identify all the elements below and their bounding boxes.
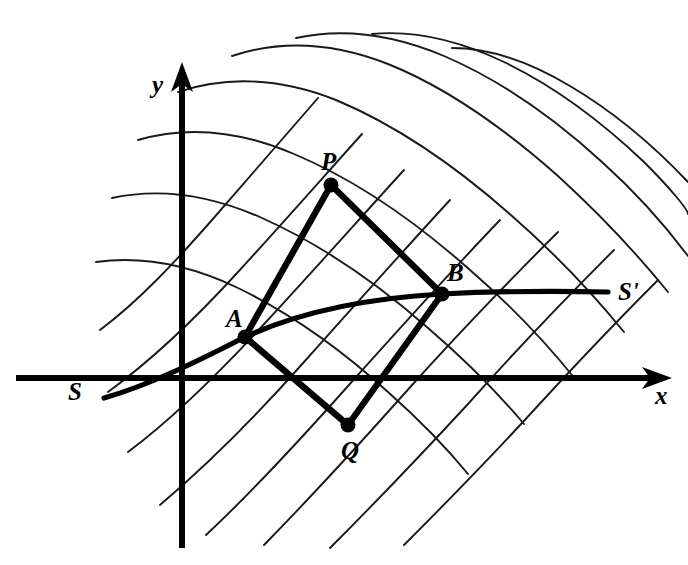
vertex-dot-B [435,287,450,302]
coordinate-grid-diagram: x y S S' APBQ [0,0,688,565]
figure-background [0,0,688,565]
x-axis-label: x [654,382,668,409]
vertex-label-Q: Q [341,437,359,464]
figure-root: x y S S' APBQ [0,0,688,565]
y-axis-label: y [149,71,164,98]
vertex-label-B: B [446,259,464,286]
vertex-label-P: P [320,148,337,175]
vertex-dot-Q [341,418,356,433]
vertex-label-A: A [224,305,243,332]
stream-start-label-S: S [68,378,82,405]
vertex-dot-P [324,178,339,193]
stream-end-label-S-prime: S' [618,278,639,305]
